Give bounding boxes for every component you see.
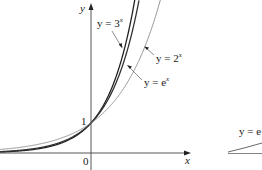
origin-label: 0 xyxy=(83,155,89,167)
x-axis-label: x xyxy=(184,154,190,166)
svg-text:y = 3x: y = 3x xyxy=(97,16,124,29)
svg-text:y = ex: y = ex xyxy=(144,75,170,88)
exponential-graph: x y 0 1 y = 3x y = 2x y = ex y = e xyxy=(0,0,262,170)
label-2x: y = 2x xyxy=(144,47,183,65)
svg-text:y = e: y = e xyxy=(239,125,261,137)
label-ex: y = ex xyxy=(127,65,170,88)
arrowhead-icon xyxy=(119,43,123,49)
y-axis xyxy=(89,3,94,170)
arrowhead-icon xyxy=(127,65,132,69)
x-axis xyxy=(0,151,191,156)
y-tick-label-1: 1 xyxy=(81,115,87,127)
y-axis-label: y xyxy=(79,2,85,14)
label-3x: y = 3x xyxy=(97,16,124,49)
curves xyxy=(0,0,161,152)
y-axis-arrow-icon xyxy=(89,3,94,10)
arrowhead-icon xyxy=(144,47,149,51)
svg-text:y = 2x: y = 2x xyxy=(156,51,183,64)
second-panel-partial: y = e xyxy=(228,125,262,154)
